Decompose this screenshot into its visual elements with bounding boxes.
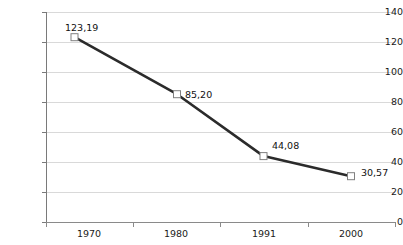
data-point-marker-1980	[174, 91, 181, 98]
data-point-marker-2000	[348, 173, 355, 180]
data-label-2000: 30,57	[361, 167, 388, 178]
data-series	[0, 0, 403, 245]
series-line	[75, 37, 352, 176]
data-label-1980: 85,20	[185, 89, 212, 100]
line-chart: 140 120 100 80 60 40 20 0 1970 1980 1991…	[0, 0, 403, 245]
data-label-1970: 123,19	[65, 22, 98, 33]
data-label-1991: 44,08	[272, 140, 299, 151]
data-point-marker-1970	[71, 34, 78, 41]
data-point-marker-1991	[260, 153, 267, 160]
